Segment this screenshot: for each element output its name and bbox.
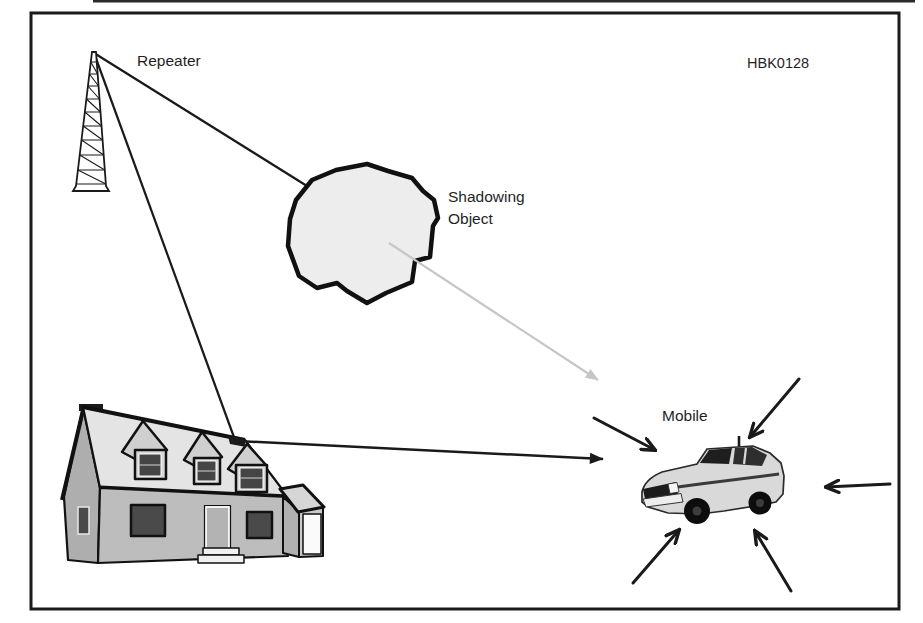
- house-front-window-right: [247, 512, 272, 538]
- house-door: [206, 507, 229, 551]
- house-step-bottom: [198, 555, 244, 563]
- scan-edge-artifact: [93, 0, 915, 3]
- repeater-label: Repeater: [137, 52, 201, 69]
- car-rear-hub: [756, 499, 764, 507]
- house-side-window: [78, 507, 89, 534]
- figure-code-label: HBK0128: [747, 55, 809, 71]
- shadowing-object-label-line1: Shadowing: [448, 188, 525, 205]
- figure-page: Repeater HBK0128 Shadowing Object Mobile: [0, 0, 923, 623]
- propagation-diagram: Repeater HBK0128 Shadowing Object Mobile: [0, 0, 923, 623]
- house-step-top: [203, 548, 239, 555]
- car-headlight: [668, 483, 679, 494]
- car-front-hub: [693, 507, 702, 516]
- house-front-window-left: [131, 505, 165, 536]
- shadowing-object-label-line2: Object: [448, 210, 493, 227]
- mobile-label: Mobile: [662, 407, 708, 424]
- garage-door: [303, 514, 321, 554]
